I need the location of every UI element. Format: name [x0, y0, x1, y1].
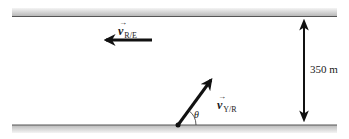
river-velocity-label: → v R/E	[118, 22, 137, 40]
vector-arrow-icon: →	[218, 93, 226, 101]
bottom-riverbank	[12, 125, 337, 133]
river-width-label: 350 m	[310, 64, 338, 75]
river-diagram-canvas	[0, 0, 349, 139]
boat-velocity-label: → v Y/R	[217, 96, 237, 114]
angle-theta-label: θ	[194, 110, 199, 120]
boat-origin-dot	[176, 123, 181, 128]
vector-arrow-icon: →	[119, 19, 127, 27]
boat-velocity-subscript: Y/R	[223, 105, 236, 114]
river-velocity-symbol: → v	[118, 25, 123, 37]
boat-velocity-symbol: → v	[217, 99, 222, 111]
top-riverbank	[12, 8, 337, 17]
river-velocity-subscript: R/E	[124, 31, 136, 40]
